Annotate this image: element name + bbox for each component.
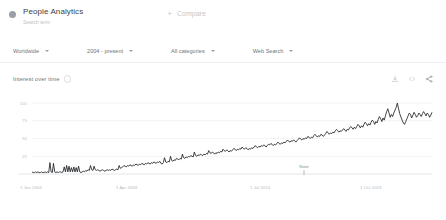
chevron-down-icon	[211, 50, 215, 52]
chevron-down-icon	[129, 50, 133, 52]
chart-title: Interest over time	[13, 76, 60, 82]
x-axis-tick-label: 1 Jan 2004	[20, 185, 42, 190]
x-axis-tick-label: 1 Oct 2019	[360, 185, 381, 190]
trend-line	[32, 103, 432, 172]
filter-divider	[0, 62, 446, 63]
chart-header: Interest over time	[10, 72, 436, 86]
plus-icon: +	[167, 10, 172, 17]
y-axis-tick-label: 25	[22, 154, 27, 159]
filter-category-label: All categories	[171, 48, 205, 54]
search-term-header: People Analytics Search term + Compare	[0, 0, 446, 30]
download-icon[interactable]	[391, 75, 399, 83]
filter-location[interactable]: Worldwide	[13, 48, 49, 54]
interest-over-time-line-chart: 100755025Note	[10, 88, 436, 186]
share-icon[interactable]	[425, 75, 433, 83]
chevron-down-icon	[45, 50, 49, 52]
y-axis-tick-label: 50	[22, 136, 27, 141]
search-term-block[interactable]: People Analytics Search term	[23, 7, 83, 26]
filter-time-range[interactable]: 2004 - present	[87, 48, 133, 54]
help-circle-icon[interactable]	[64, 75, 72, 83]
chart-plot-area[interactable]: 100755025Note	[10, 88, 436, 186]
compare-label: Compare	[177, 10, 206, 17]
note-annotation-label[interactable]: Note	[299, 164, 309, 169]
compare-button[interactable]: + Compare	[167, 10, 205, 17]
filter-search-type-label: Web Search	[253, 48, 284, 54]
interest-over-time-card: Interest over time	[10, 72, 436, 197]
chart-actions	[391, 75, 433, 83]
y-axis-tick-label: 75	[22, 118, 27, 123]
search-term-subtitle: Search term	[23, 18, 83, 26]
search-term-title: People Analytics	[23, 7, 83, 17]
x-axis-tick-label: 1 Apr 2009	[116, 185, 137, 190]
filter-time-range-label: 2004 - present	[87, 48, 123, 54]
filter-category[interactable]: All categories	[171, 48, 215, 54]
x-axis-tick-label: 1 Jul 2014	[250, 185, 270, 190]
trends-page: People Analytics Search term + Compare W…	[0, 0, 446, 220]
filter-location-label: Worldwide	[13, 48, 39, 54]
embed-icon[interactable]	[408, 75, 416, 83]
chart-x-axis: 1 Jan 20041 Apr 20091 Jul 20141 Oct 2019	[10, 185, 436, 197]
series-color-dot	[9, 11, 16, 18]
chevron-down-icon	[289, 50, 293, 52]
filter-bar: Worldwide 2004 - present All categories …	[0, 40, 446, 62]
filter-search-type[interactable]: Web Search	[253, 48, 294, 54]
y-axis-tick-label: 100	[20, 101, 28, 106]
